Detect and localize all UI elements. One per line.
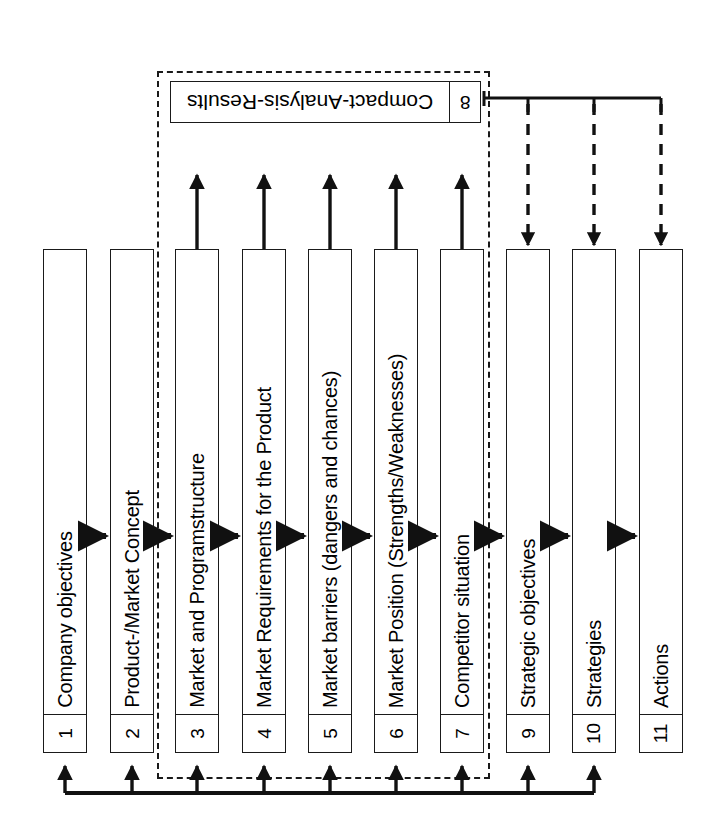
process-box-10-label: Strategies bbox=[584, 620, 604, 708]
process-box-1-label-wrap: Company objectives bbox=[44, 250, 86, 714]
process-box-1-number-cell: 1 bbox=[44, 714, 86, 752]
process-box-1-label: Company objectives bbox=[55, 531, 75, 708]
process-box-7[interactable]: Competitor situation 7 bbox=[440, 249, 484, 753]
process-box-7-number-cell: 7 bbox=[441, 714, 483, 752]
result-box-number: 8 bbox=[460, 93, 471, 112]
process-box-4[interactable]: Market Requirements for the Product 4 bbox=[242, 249, 286, 753]
process-box-6-number-cell: 6 bbox=[375, 714, 417, 752]
process-box-11-label-wrap: Actions bbox=[640, 250, 682, 714]
process-box-2-number-cell: 2 bbox=[111, 714, 153, 752]
process-box-5-number: 5 bbox=[320, 728, 339, 739]
process-box-10-number-cell: 10 bbox=[573, 714, 615, 752]
process-box-9[interactable]: Strategic objectives 9 bbox=[506, 249, 550, 753]
process-box-3-label: Market and Programstructure bbox=[187, 453, 207, 708]
result-box-label-wrap: Compact-Analysis-Results bbox=[171, 82, 449, 122]
process-box-11-label: Actions bbox=[651, 644, 671, 708]
result-distribution-bus bbox=[484, 91, 661, 112]
process-box-7-label-wrap: Competitor situation bbox=[441, 250, 483, 714]
process-box-6-number: 6 bbox=[386, 728, 405, 739]
process-box-3-number-cell: 3 bbox=[176, 714, 218, 752]
result-box-number-cell: 8 bbox=[449, 82, 480, 122]
process-box-11-number: 11 bbox=[651, 724, 670, 744]
process-box-6[interactable]: Market Position (Strengths/Weaknesses) 6 bbox=[374, 249, 418, 753]
process-box-5-label-wrap: Market barriers (dangers and chances) bbox=[309, 250, 351, 714]
process-box-2[interactable]: Product-/Market Concept 2 bbox=[110, 249, 154, 753]
result-box-label: Compact-Analysis-Results bbox=[187, 92, 433, 113]
process-box-11[interactable]: Actions 11 bbox=[639, 249, 683, 753]
feedback-bus-line bbox=[65, 766, 594, 793]
process-box-3-number: 3 bbox=[187, 728, 206, 739]
process-box-1[interactable]: Company objectives 1 bbox=[43, 249, 87, 753]
process-box-3[interactable]: Market and Programstructure 3 bbox=[175, 249, 219, 753]
process-box-4-label: Market Requirements for the Product bbox=[254, 387, 274, 708]
process-box-4-number-cell: 4 bbox=[243, 714, 285, 752]
process-box-10-number: 10 bbox=[584, 723, 603, 744]
process-box-6-label-wrap: Market Position (Strengths/Weaknesses) bbox=[375, 250, 417, 714]
process-box-9-label: Strategic objectives bbox=[518, 539, 538, 708]
process-box-2-number: 2 bbox=[122, 728, 141, 739]
process-box-9-number-cell: 9 bbox=[507, 714, 549, 752]
process-box-9-number: 9 bbox=[518, 728, 537, 739]
process-box-10[interactable]: Strategies 10 bbox=[572, 249, 616, 753]
process-box-2-label: Product-/Market Concept bbox=[122, 490, 142, 708]
process-box-1-number: 1 bbox=[55, 728, 74, 739]
process-box-7-label: Competitor situation bbox=[452, 534, 472, 708]
process-box-5-number-cell: 5 bbox=[309, 714, 351, 752]
result-box-8[interactable]: Compact-Analysis-Results 8 bbox=[170, 81, 481, 123]
process-box-7-number: 7 bbox=[452, 728, 471, 739]
process-box-2-label-wrap: Product-/Market Concept bbox=[111, 250, 153, 714]
process-box-4-number: 4 bbox=[254, 728, 273, 739]
process-box-5-label: Market barriers (dangers and chances) bbox=[320, 371, 340, 708]
process-box-11-number-cell: 11 bbox=[640, 714, 682, 752]
process-box-3-label-wrap: Market and Programstructure bbox=[176, 250, 218, 714]
process-box-6-label: Market Position (Strengths/Weaknesses) bbox=[386, 354, 406, 708]
process-box-5[interactable]: Market barriers (dangers and chances) 5 bbox=[308, 249, 352, 753]
process-box-10-label-wrap: Strategies bbox=[573, 250, 615, 714]
process-box-4-label-wrap: Market Requirements for the Product bbox=[243, 250, 285, 714]
diagram-canvas: Compact-Analysis-Results 8 Company objec… bbox=[0, 0, 718, 827]
process-box-9-label-wrap: Strategic objectives bbox=[507, 250, 549, 714]
